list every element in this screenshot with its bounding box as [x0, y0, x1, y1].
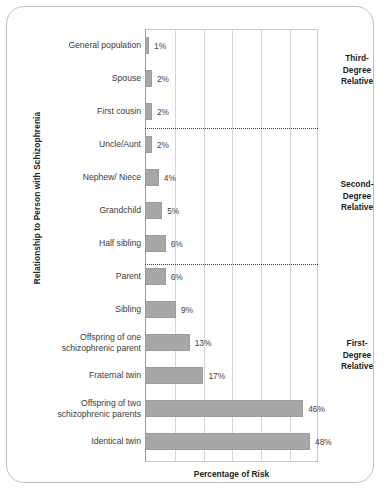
bar-container: 46% [145, 392, 388, 425]
bar-value-label: 4% [164, 169, 176, 186]
category-label: Offspring of oneschizophrenic parent [21, 326, 141, 359]
category-label-line-1: First cousin [97, 106, 141, 117]
group-label-line-2: Degree [325, 65, 388, 77]
category-label: Offspring of twoschizophrenic parents [21, 392, 141, 425]
table-row: Identical twin48% [7, 425, 388, 458]
category-label: Uncle/Aunt [21, 128, 141, 161]
group-label-third-degree: Third- Degree Relative [325, 53, 388, 88]
category-label: Half sibling [21, 227, 141, 260]
bar [145, 367, 203, 384]
bar-value-label: 2% [157, 103, 169, 120]
category-label-line-1: Parent [116, 271, 141, 282]
category-label-line-1: Fraternal twin [89, 370, 141, 381]
group-label-line-1: First- [325, 338, 388, 350]
bar-value-label: 13% [195, 334, 212, 351]
category-label: Nephew/ Niece [21, 161, 141, 194]
bar [145, 37, 149, 54]
category-label-line-1: Sibling [115, 304, 141, 315]
bar [145, 433, 310, 450]
bar-value-label: 46% [308, 400, 325, 417]
table-row: Half sibling6% [7, 227, 388, 260]
bar [145, 301, 176, 318]
bar [145, 400, 303, 417]
category-label-line-1: General population [68, 40, 141, 51]
category-label-line-1: Identical twin [91, 436, 141, 447]
bar-value-label: 6% [171, 268, 183, 285]
group-label-second-degree: Second- Degree Relative [325, 179, 388, 214]
category-label-line-1: Offspring of two [57, 398, 141, 409]
bar-container: 48% [145, 425, 388, 458]
bar-value-label: 9% [181, 301, 193, 318]
table-row: Offspring of twoschizophrenic parents46% [7, 392, 388, 425]
bar-value-label: 2% [157, 136, 169, 153]
bar-value-label: 48% [315, 433, 332, 450]
group-label-line-3: Relative [325, 202, 388, 214]
bar [145, 103, 152, 120]
category-label-line-2: schizophrenic parent [62, 343, 141, 354]
bar-value-label: 2% [157, 70, 169, 87]
group-label-line-2: Degree [325, 350, 388, 362]
bar [145, 268, 166, 285]
category-label: First cousin [21, 95, 141, 128]
category-label-line-1: Half sibling [99, 238, 141, 249]
bar-value-label: 17% [208, 367, 225, 384]
chart-card: Relationship to Person with Schizophreni… [6, 6, 374, 483]
x-axis-title: Percentage of Risk [145, 469, 318, 479]
group-separator-second-first [145, 264, 318, 265]
table-row: First cousin2% [7, 95, 388, 128]
bar [145, 235, 166, 252]
category-label: Fraternal twin [21, 359, 141, 392]
category-label: Sibling [21, 293, 141, 326]
bar-container: 2% [145, 128, 388, 161]
category-label-line-1: Nephew/ Niece [83, 172, 141, 183]
table-row: Uncle/Aunt2% [7, 128, 388, 161]
category-label: Identical twin [21, 425, 141, 458]
group-separator-third-second [145, 128, 318, 129]
bar-value-label: 6% [171, 235, 183, 252]
category-label: General population [21, 29, 141, 62]
bar-value-label: 5% [167, 202, 179, 219]
bar [145, 136, 152, 153]
category-label-line-1: Uncle/Aunt [99, 139, 141, 150]
category-label: Spouse [21, 62, 141, 95]
bar-container: 6% [145, 227, 388, 260]
bar-rows: General population1%Spouse2%First cousin… [7, 29, 388, 462]
category-label-line-1: Spouse [112, 73, 141, 84]
category-label-line-1: Grandchild [99, 205, 141, 216]
bar [145, 202, 162, 219]
bar-value-label: 1% [154, 37, 166, 54]
category-label-line-1: Offspring of one [62, 332, 141, 343]
table-row: Sibling9% [7, 293, 388, 326]
bar [145, 334, 190, 351]
group-label-line-1: Third- [325, 53, 388, 65]
bar-container: 2% [145, 95, 388, 128]
bar [145, 70, 152, 87]
group-label-first-degree: First- Degree Relative [325, 338, 388, 373]
group-label-line-3: Relative [325, 361, 388, 373]
bar-container: 9% [145, 293, 388, 326]
category-label: Parent [21, 260, 141, 293]
group-label-line-2: Degree [325, 191, 388, 203]
bar [145, 169, 159, 186]
group-label-line-3: Relative [325, 76, 388, 88]
category-label: Grandchild [21, 194, 141, 227]
group-label-line-1: Second- [325, 179, 388, 191]
category-label-line-2: schizophrenic parents [57, 409, 141, 420]
